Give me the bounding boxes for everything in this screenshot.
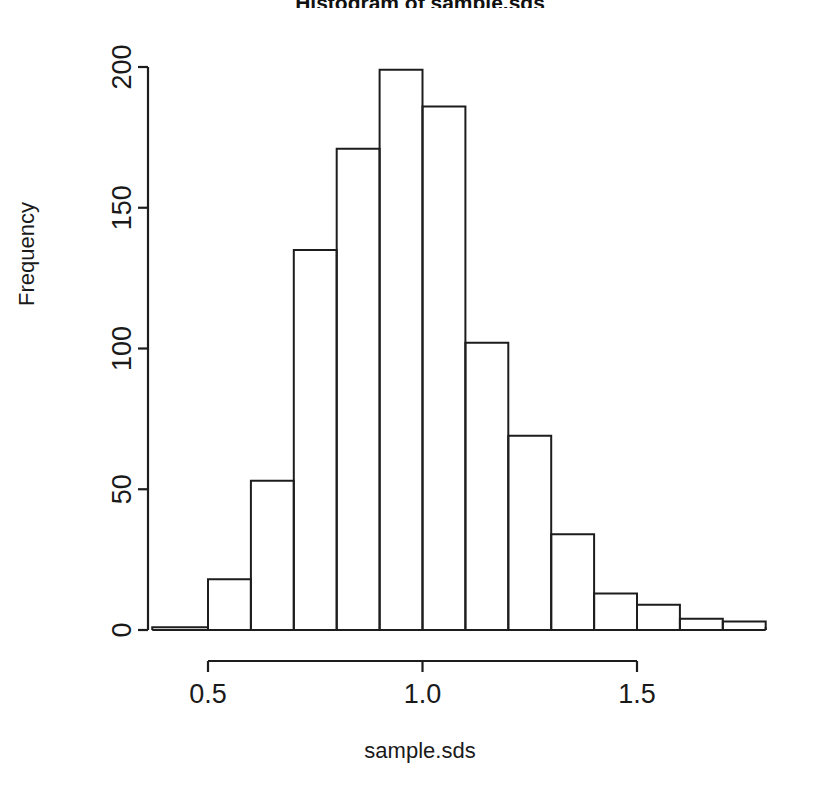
y-tick-label: 100: [107, 326, 137, 371]
y-tick-label: 200: [107, 44, 137, 89]
histogram-bars: [152, 70, 765, 630]
histogram-bar: [423, 106, 466, 630]
y-tick-label: 150: [107, 185, 137, 230]
histogram-bar: [594, 593, 637, 630]
histogram-bar: [465, 343, 508, 630]
y-tick-label: 0: [107, 622, 137, 637]
x-tick-label: 1.5: [618, 679, 656, 709]
plot-area: 050100150200 0.51.01.5: [0, 0, 840, 810]
histogram-bar: [294, 250, 337, 630]
histogram-bar: [723, 622, 766, 630]
histogram-bar: [637, 605, 680, 630]
histogram-bar: [551, 534, 594, 630]
y-tick-label: 50: [107, 474, 137, 504]
y-axis: [138, 67, 148, 630]
y-tick-labels: 050100150200: [107, 44, 137, 637]
histogram-bar: [380, 70, 423, 630]
x-tick-labels: 0.51.01.5: [189, 679, 656, 709]
x-tick-label: 0.5: [189, 679, 227, 709]
x-tick-label: 1.0: [404, 679, 442, 709]
y-axis-label: Frequency: [14, 164, 40, 344]
histogram-bar: [251, 481, 294, 630]
histogram-bar: [337, 149, 380, 630]
x-axis: [208, 661, 637, 672]
histogram-bar: [508, 436, 551, 630]
x-axis-label: sample.sds: [0, 738, 840, 764]
histogram-bar: [680, 619, 723, 630]
histogram-figure: Histogram of sample.sds 050100150200 0.5…: [0, 0, 840, 810]
histogram-bar: [208, 579, 251, 630]
